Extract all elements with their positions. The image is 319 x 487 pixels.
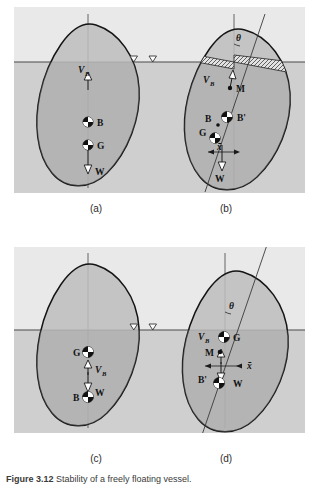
panel-c-center-of-buoyancy-marker xyxy=(83,392,94,403)
panel-d-metacenter-label: M xyxy=(205,348,214,358)
panel-b-center-of-gravity-label: G xyxy=(199,128,207,138)
panel-b: θ V B M B B' G x̄ W xyxy=(146,7,305,193)
panel-b-righting-arm-label: x̄ xyxy=(216,142,222,152)
panel-c-center-of-gravity-marker xyxy=(83,347,94,358)
panel-a: V B B G W xyxy=(14,7,146,193)
panel-a-caption: (a) xyxy=(90,203,102,214)
panel-a-buoyancy-label: V xyxy=(78,65,85,75)
panel-a-center-of-gravity-label: G xyxy=(97,141,105,151)
panel-c-center-of-gravity-label: G xyxy=(73,348,81,358)
panel-d-center-of-gravity-label: G xyxy=(233,333,241,343)
panel-b-center-of-buoyancy-label: B xyxy=(205,114,212,124)
figure-root: V B B G W xyxy=(0,0,319,487)
panel-c-center-of-buoyancy-label: B xyxy=(73,393,80,403)
panel-d-shifted-center-of-buoyancy-marker xyxy=(214,378,225,389)
panel-b-center-of-buoyancy-dot xyxy=(216,123,220,127)
panel-b-shifted-center-of-buoyancy-label: B' xyxy=(237,113,246,123)
panel-c: G V B W B xyxy=(14,247,146,433)
panel-a-center-of-buoyancy-label: B xyxy=(97,118,104,128)
panel-c-buoyancy-label: V xyxy=(95,365,102,375)
figure-caption-label: Figure 3.12 xyxy=(6,474,54,484)
figure-caption-text: Stability of a freely floating vessel. xyxy=(56,474,192,484)
figure-graphic: V B B G W xyxy=(0,0,319,474)
panel-d-metacenter-dot xyxy=(218,350,223,355)
panel-a-center-of-buoyancy-marker xyxy=(83,117,93,127)
panel-d-caption: (d) xyxy=(220,453,232,464)
figure-caption: Figure 3.12 Stability of a freely floati… xyxy=(6,474,192,484)
panel-c-buoyancy-label-sub: B xyxy=(101,370,107,377)
panel-b-heel-angle-label: θ xyxy=(236,33,241,43)
panel-b-metacenter-dot xyxy=(228,86,232,90)
panel-d-buoyancy-label: V xyxy=(198,332,205,342)
figure-caption-row: Figure 3.12 Stability of a freely floati… xyxy=(0,474,319,487)
panel-b-weight-label: W xyxy=(215,174,225,184)
panel-d-buoyancy-label-sub: B xyxy=(204,337,210,344)
panel-d: θ V B G M x̄ B' W xyxy=(146,242,305,470)
panel-a-buoyancy-label-sub: B xyxy=(84,70,90,77)
panel-b-buoyancy-label-sub: B xyxy=(209,80,215,87)
panel-a-weight-label: W xyxy=(95,167,105,177)
panel-b-metacenter-label: M xyxy=(236,84,245,94)
panel-c-caption: (c) xyxy=(90,453,102,464)
panel-b-caption: (b) xyxy=(220,203,232,214)
panel-b-buoyancy-label: V xyxy=(203,75,210,85)
panel-a-center-of-gravity-marker xyxy=(83,140,93,150)
panel-d-weight-label: W xyxy=(233,379,243,389)
panel-d-heel-angle-label: θ xyxy=(229,301,234,311)
panel-d-center-of-gravity-marker xyxy=(219,332,230,343)
panel-b-shifted-center-of-buoyancy-marker xyxy=(222,112,233,123)
panel-c-weight-label: W xyxy=(95,388,105,398)
panel-d-overturning-arm-label: x̄ xyxy=(246,361,252,371)
panel-d-shifted-center-of-buoyancy-label: B' xyxy=(198,375,207,385)
